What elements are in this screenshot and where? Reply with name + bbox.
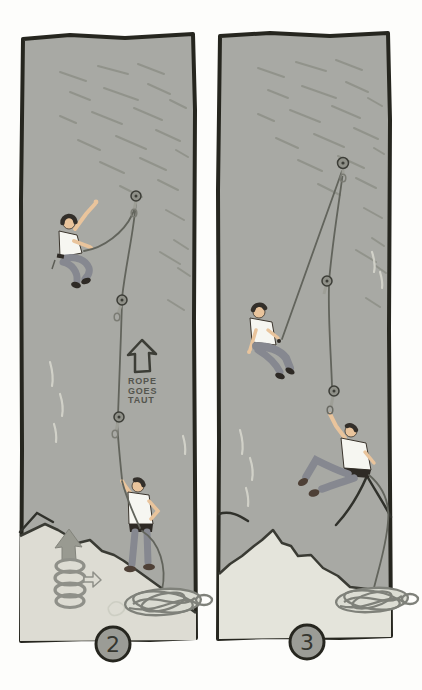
panel-number-badge: 3 [290, 625, 324, 659]
annotation-line-3: TAUT [128, 395, 155, 405]
climbing-illustration: ROPE GOES TAUT 2 [0, 0, 422, 690]
annotation-line-2: GOES [128, 386, 157, 396]
panel-3: 3 [218, 33, 418, 659]
panel-3-number: 3 [300, 630, 314, 655]
panel-2-number: 2 [106, 632, 120, 657]
rock-wall [218, 33, 391, 639]
illustration-canvas: ROPE GOES TAUT 2 [0, 0, 422, 690]
rope-goes-taut-label: ROPE GOES TAUT [128, 376, 157, 405]
annotation-line-1: ROPE [128, 376, 157, 386]
panel-2: ROPE GOES TAUT 2 [20, 34, 212, 661]
panel-number-badge: 2 [96, 627, 130, 661]
